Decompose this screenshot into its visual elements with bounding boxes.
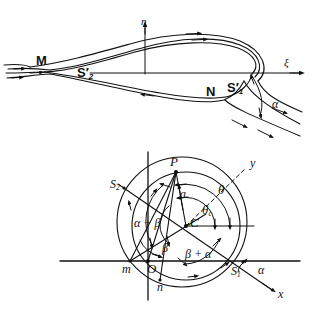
- label-xi-axis: ξ: [284, 57, 289, 68]
- figure-root: M S′2 N S′1 η ξ α P C O m n S2 S1 a θ θc…: [0, 0, 316, 318]
- point-C-dot: [184, 224, 188, 228]
- label-alpha-lower: α: [258, 264, 264, 276]
- freestream-line-outer: [4, 65, 30, 67]
- label-M: M: [36, 54, 47, 67]
- label-alpha-plus-beta: α + β: [134, 217, 160, 229]
- label-theta-c-sub: c: [208, 209, 212, 218]
- label-S1-prime-letter: S: [227, 80, 236, 95]
- label-alpha-upper: α: [272, 98, 278, 110]
- point-S1-dot: [241, 260, 244, 263]
- label-x-axis: x: [278, 288, 283, 300]
- x-axis-arrow: [262, 283, 274, 291]
- airfoil-lower-surface: [44, 72, 230, 98]
- label-S1: S1: [231, 265, 241, 279]
- label-segment-a: a: [180, 188, 186, 200]
- label-theta-c: θc: [202, 203, 212, 218]
- label-S2: S2: [110, 178, 120, 192]
- label-O: O: [147, 262, 156, 275]
- label-S2-sub: 2: [116, 183, 120, 192]
- figure-canvas: [0, 0, 316, 318]
- label-S2-prime-sub: 2: [89, 72, 93, 81]
- label-C: C: [190, 216, 199, 229]
- label-S1-prime: S′1: [227, 81, 243, 96]
- upper-diagram-group: [4, 24, 302, 137]
- label-N: N: [206, 85, 215, 98]
- label-n: n: [157, 281, 163, 293]
- x-axis-inclined: [118, 184, 272, 290]
- label-S1-prime-sub: 1: [239, 87, 243, 96]
- label-theta: θ: [218, 183, 224, 196]
- label-beta: β: [162, 242, 168, 254]
- theta-arc-arrow-start: [176, 184, 186, 185]
- point-S2-dot: [122, 186, 125, 189]
- label-beta-plus-alpha: β + α: [185, 248, 211, 260]
- point-P-dot: [174, 170, 178, 174]
- streamline-downstream-c: [258, 81, 302, 112]
- label-eta-axis: η: [141, 16, 146, 27]
- label-P: P: [170, 155, 178, 168]
- lower-diagram-group: [60, 152, 300, 300]
- label-S2-prime: S′2: [77, 66, 93, 81]
- label-m: m: [122, 263, 131, 275]
- label-S1-sub: 1: [237, 270, 241, 279]
- label-y-axis: y: [250, 157, 255, 169]
- label-S2-prime-letter: S: [77, 65, 86, 80]
